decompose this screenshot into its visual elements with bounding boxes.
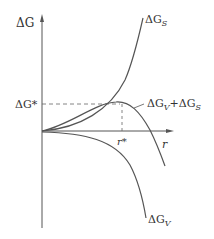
critical-energy-label-text: ΔG* <box>15 98 37 111</box>
y-axis-arrow-icon <box>40 14 44 22</box>
x-axis-arrow-icon <box>166 129 174 133</box>
critical-energy-label: ΔG* <box>15 99 37 110</box>
diagram-canvas <box>0 0 214 239</box>
volume-energy-curve <box>42 132 146 218</box>
critical-radius-label-text: r* <box>117 136 127 147</box>
sum-label-leader <box>134 104 144 108</box>
y-axis-label-text: ΔG <box>16 16 34 30</box>
surface-curve-label: ΔGS <box>145 14 167 28</box>
critical-radius-label: r* <box>117 137 127 147</box>
x-axis-label: r <box>162 139 167 150</box>
sum-curve-label: ΔGV+ΔGS <box>147 98 201 112</box>
y-axis-label: ΔG <box>16 17 34 29</box>
surface-energy-curve <box>42 18 143 131</box>
volume-curve-label: ΔGV <box>148 214 171 228</box>
x-axis-label-text: r <box>162 138 167 151</box>
